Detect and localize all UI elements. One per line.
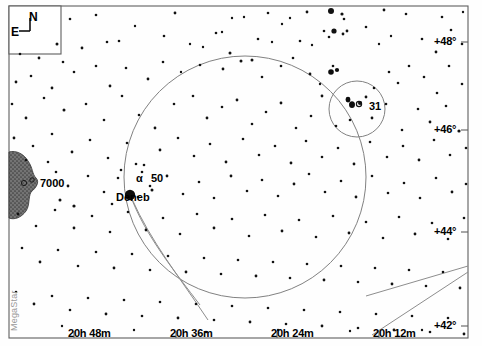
star-point (328, 36, 331, 39)
star-point (305, 140, 308, 143)
star-point (109, 85, 112, 88)
star-point (421, 38, 424, 41)
star-point (222, 68, 225, 71)
star-point (111, 203, 114, 206)
star-point (85, 103, 88, 106)
star-point (378, 43, 380, 45)
star-point (173, 103, 176, 106)
star-point (127, 211, 130, 214)
star-point (274, 145, 277, 148)
star-point (73, 227, 76, 230)
star-point (277, 195, 280, 198)
star-point (264, 214, 267, 217)
star-point (299, 40, 302, 43)
star-point (280, 65, 283, 68)
star-point (192, 95, 195, 98)
star-point (17, 213, 20, 216)
star-point (324, 191, 327, 194)
star-point (13, 137, 16, 140)
star-point (267, 307, 270, 310)
star-point (33, 303, 36, 306)
star-point (174, 12, 177, 15)
star-point (292, 57, 295, 60)
star-point (337, 147, 340, 150)
star-point (442, 271, 445, 274)
star-point (180, 71, 182, 73)
star-point (103, 119, 106, 122)
star-point (72, 204, 75, 207)
star-point (421, 329, 423, 331)
star-point (95, 251, 98, 254)
star-point (67, 185, 70, 188)
star-point (382, 237, 385, 240)
star-point (248, 235, 251, 238)
star-point (371, 117, 374, 120)
star-point (321, 95, 324, 98)
star-point (339, 311, 342, 314)
star-point (401, 129, 404, 132)
star-point (202, 46, 204, 48)
star-point (47, 161, 50, 164)
star-point (159, 149, 162, 152)
star-point (89, 139, 92, 142)
star-point (311, 44, 313, 46)
star-point (433, 139, 436, 142)
star-point (213, 227, 216, 230)
star-point (87, 297, 90, 300)
star-point (332, 215, 335, 218)
star-point (459, 287, 462, 290)
star-point (213, 319, 216, 322)
label-ngc-7000: 7000 (40, 177, 64, 189)
star-point (177, 317, 180, 320)
star-point (243, 16, 245, 18)
label-ngc-6871: 31 (369, 100, 381, 112)
star-point (289, 17, 291, 19)
star-point (293, 183, 296, 186)
constellation-line-cygnus-spine (132, 199, 208, 320)
star-point (365, 96, 368, 99)
star-point (321, 325, 324, 328)
star-point (340, 265, 343, 268)
compass-east-label: E (11, 25, 19, 39)
star-point (308, 173, 311, 176)
star-point (445, 105, 448, 108)
star-point (199, 64, 202, 67)
star-point (125, 67, 128, 70)
star-point (355, 196, 358, 199)
star-point (251, 123, 254, 126)
star-point (323, 279, 326, 282)
star-point (321, 156, 324, 159)
star-point (388, 71, 391, 74)
star-point (240, 60, 243, 63)
star-point (203, 257, 206, 260)
label-alpha-cygni: α (136, 172, 143, 184)
star-point (166, 175, 169, 178)
star-point (162, 61, 165, 64)
star-point (35, 225, 38, 228)
ra-label-2036: 20h 36m (170, 327, 213, 339)
star-point (39, 261, 42, 264)
star-point (105, 313, 108, 316)
star-point (332, 65, 335, 68)
star-point (261, 76, 264, 79)
star-point (177, 137, 180, 140)
star-point (450, 29, 453, 32)
star-point (196, 213, 199, 216)
star-point (71, 151, 74, 154)
star-point (231, 17, 233, 19)
star-point (383, 9, 386, 12)
star-point (242, 138, 245, 141)
dec-label-42: +42° (434, 319, 456, 331)
star-point (397, 82, 400, 85)
star-point (386, 156, 389, 159)
dec-label-46: +46° (434, 123, 456, 135)
star-point (398, 216, 401, 219)
star-point (38, 57, 41, 60)
star-point (143, 164, 146, 167)
star-point (131, 253, 134, 256)
star-point (429, 121, 432, 124)
star-point (436, 92, 439, 95)
star-point (261, 179, 264, 182)
star-point (220, 273, 223, 276)
star-point (221, 106, 224, 109)
